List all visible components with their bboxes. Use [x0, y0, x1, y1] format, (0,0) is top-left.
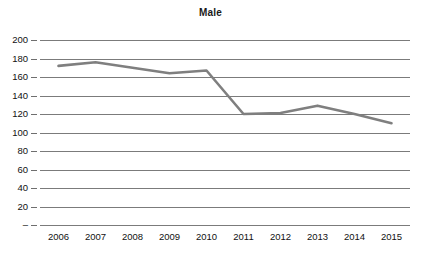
y-axis-tick-mark	[31, 59, 37, 60]
y-axis-tick-label: 40	[0, 183, 28, 193]
gridline	[40, 225, 410, 226]
y-axis-tick-label: 200	[0, 35, 28, 45]
x-axis-tick-label: 2014	[344, 231, 365, 242]
x-axis-tick-label: 2015	[381, 231, 402, 242]
y-axis-tick-mark	[31, 151, 37, 152]
x-axis-tick-label: 2012	[270, 231, 291, 242]
x-axis-tick-label: 2013	[307, 231, 328, 242]
x-axis-tick-label: 2010	[196, 231, 217, 242]
x-axis: 2006200720082009201020112012201320142015	[40, 231, 410, 247]
y-axis-tick-label: 180	[0, 54, 28, 64]
y-axis-tick-label: –	[0, 220, 28, 230]
y-axis-tick-label: 80	[0, 146, 28, 156]
y-axis-tick-label: 160	[0, 72, 28, 82]
x-axis-tick-label: 2007	[85, 231, 106, 242]
x-axis-tick-label: 2006	[48, 231, 69, 242]
x-axis-tick-label: 2009	[159, 231, 180, 242]
y-axis-tick-mark	[31, 40, 37, 41]
y-axis-tick-mark	[31, 114, 37, 115]
y-axis-tick-label: 140	[0, 91, 28, 101]
y-axis-tick-label: 100	[0, 128, 28, 138]
y-axis-tick-mark	[31, 96, 37, 97]
y-axis-tick-label: 60	[0, 165, 28, 175]
y-axis-tick-label: 20	[0, 202, 28, 212]
y-axis-tick-mark	[31, 77, 37, 78]
y-axis-tick-label: 120	[0, 109, 28, 119]
y-axis-tick-mark	[31, 133, 37, 134]
chart-title: Male	[0, 7, 421, 18]
x-axis-tick-label: 2008	[122, 231, 143, 242]
y-axis-tick-mark	[31, 188, 37, 189]
y-axis-tick-mark	[31, 225, 37, 226]
y-axis-tick-mark	[31, 170, 37, 171]
plot-area	[40, 40, 410, 225]
line-chart: Male –20406080100120140160180200 2006200…	[0, 0, 421, 259]
x-axis-tick-label: 2011	[233, 231, 253, 242]
y-axis-tick-mark	[31, 207, 37, 208]
